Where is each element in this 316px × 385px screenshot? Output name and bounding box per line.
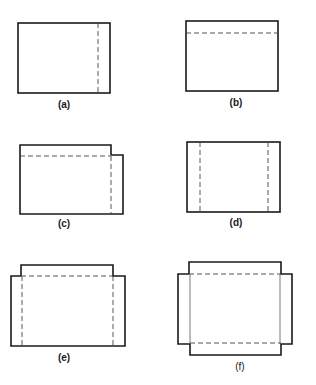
panel-c-outline: [20, 145, 123, 214]
panel-d: (d): [187, 142, 280, 228]
panel-b-label: (b): [230, 97, 243, 108]
panel-d-outline: [187, 142, 280, 212]
panel-f-outline: [178, 262, 292, 355]
panel-a-outline: [18, 23, 110, 93]
panel-a-label: (a): [58, 99, 70, 110]
panel-b: (b): [186, 21, 278, 108]
panel-b-outline: [186, 21, 278, 91]
panel-f: (f): [178, 262, 292, 372]
panel-f-label: (f): [235, 361, 244, 372]
fold-diagram-figure: (a) (b) (c) (d) (e) (f): [0, 0, 316, 385]
panel-e-label: (e): [58, 352, 70, 363]
panel-a: (a): [18, 23, 110, 110]
panel-c: (c): [20, 145, 123, 229]
panel-e: (e): [11, 265, 125, 363]
panel-d-label: (d): [230, 217, 243, 228]
panel-e-outline: [11, 265, 125, 346]
panel-c-label: (c): [58, 218, 70, 229]
